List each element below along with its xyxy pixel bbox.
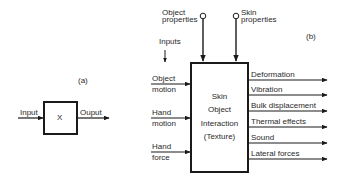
output-bulk-displacement: Bulk displacement <box>251 102 316 110</box>
output-vibration: Vibration <box>251 86 282 94</box>
hand-force-label-1: Hand <box>152 143 171 151</box>
output-label: Ouput <box>80 109 102 117</box>
output-deformation: Deformation <box>251 71 295 79</box>
object-properties-label-2: properties <box>162 16 198 24</box>
panel-a-label: (a) <box>78 77 88 85</box>
box-line-skin: Skin <box>191 93 248 101</box>
inputs-label: Inputs <box>159 38 181 46</box>
hand-force-label-2: force <box>152 154 170 162</box>
object-motion-label-1: Object <box>152 75 175 83</box>
box-line-interaction: Interaction <box>191 120 248 128</box>
hand-motion-label-2: motion <box>152 120 176 128</box>
input-label: Input <box>20 109 38 117</box>
diagram-canvas: (a) Input Ouput X (b) Object properties … <box>0 0 343 181</box>
skin-properties-label-2: properties <box>241 16 277 24</box>
panel-a-graphics <box>18 102 109 134</box>
main-box <box>191 63 248 172</box>
object-properties-node <box>200 13 206 19</box>
skin-properties-node <box>233 13 239 19</box>
object-motion-label-2: motion <box>152 86 176 94</box>
output-thermal-effects: Thermal effects <box>251 118 306 126</box>
panel-b-label: (b) <box>306 33 316 41</box>
hand-motion-label-1: Hand <box>152 109 171 117</box>
box-line-texture: (Texture) <box>191 133 248 141</box>
output-lateral-forces: Lateral forces <box>251 150 299 158</box>
output-sound: Sound <box>251 134 274 142</box>
box-x-label: X <box>57 114 62 122</box>
box-line-object: Object <box>191 106 248 114</box>
